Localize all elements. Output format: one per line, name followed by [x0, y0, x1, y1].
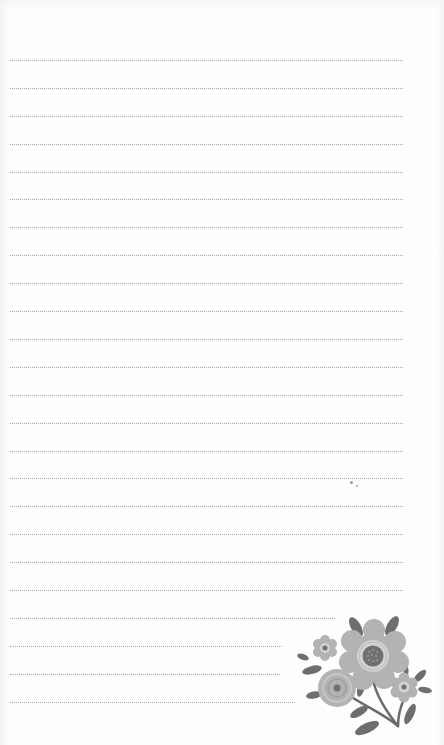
ruled-line — [10, 478, 403, 479]
leaf-icon — [296, 652, 309, 662]
ruled-line — [10, 451, 403, 452]
ruled-line — [10, 702, 295, 703]
ruled-line — [10, 367, 403, 368]
ruled-line — [10, 423, 403, 424]
notepaper-page — [0, 0, 444, 745]
ruled-line — [10, 395, 403, 396]
ruled-line — [10, 227, 403, 228]
rose-icon — [318, 669, 356, 707]
top-edge-shadow — [0, 0, 444, 10]
leaf-icon — [353, 718, 381, 738]
ruled-line — [10, 506, 403, 507]
ruled-line — [10, 283, 403, 284]
ruled-line — [10, 590, 403, 591]
left-edge-shadow — [0, 0, 8, 745]
ruled-line — [10, 116, 403, 117]
ruled-line — [10, 311, 403, 312]
ruled-line — [10, 88, 403, 89]
ruled-line — [10, 144, 403, 145]
small-flower-icon — [313, 635, 337, 661]
ruled-line — [10, 534, 403, 535]
leaf-icon — [402, 702, 419, 725]
ruled-line — [10, 339, 403, 340]
ruled-line — [10, 255, 403, 256]
ruled-line — [10, 199, 403, 200]
ruled-line — [10, 646, 282, 647]
leaf-icon — [418, 686, 433, 694]
ruled-line — [10, 60, 403, 61]
stray-mark — [350, 481, 353, 484]
ruled-line — [10, 674, 280, 675]
ruled-line — [10, 172, 403, 173]
ruled-line — [10, 562, 403, 563]
floral-illustration — [285, 605, 444, 745]
leaf-icon — [301, 664, 322, 677]
stray-mark — [356, 485, 358, 487]
